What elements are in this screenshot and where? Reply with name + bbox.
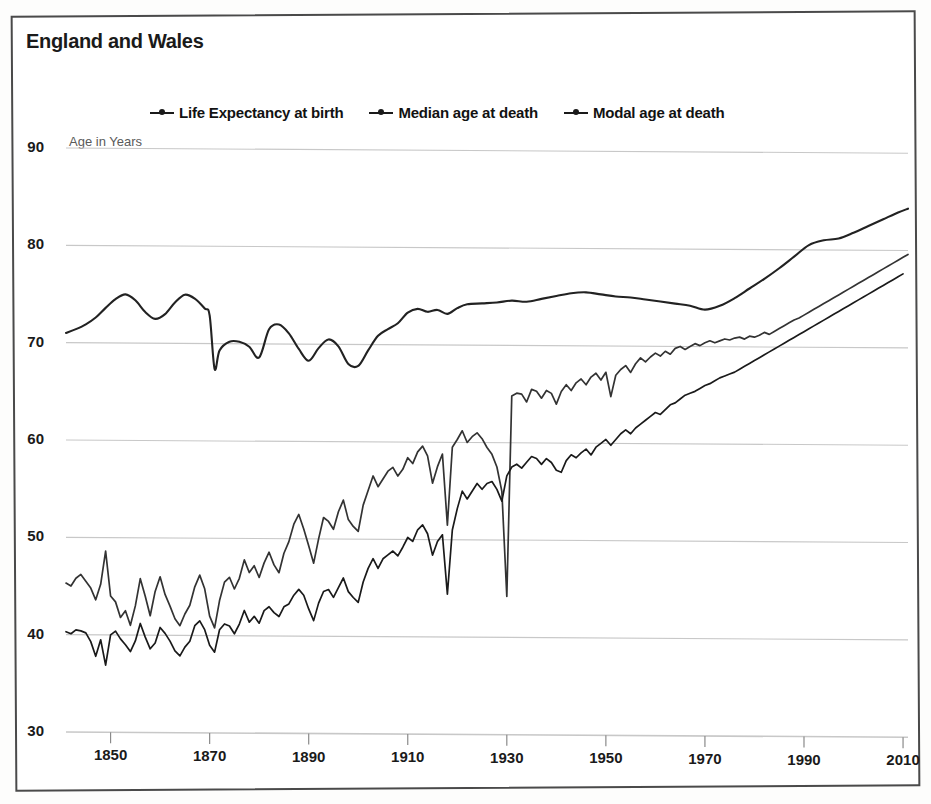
chart-page: England and Wales Life Expectancy at bir… (0, 0, 931, 804)
x-axis-tick-label: 1890 (279, 748, 339, 765)
x-axis-tick-label: 1950 (576, 749, 636, 766)
x-axis-tick-label: 1970 (675, 750, 735, 767)
x-axis-tick-label: 1910 (378, 748, 438, 765)
x-axis-labels: 185018701890191019301950197019902010 (0, 0, 931, 804)
x-axis-tick-label: 1990 (774, 751, 834, 768)
x-axis-tick-label: 2010 (873, 751, 931, 768)
x-axis-tick-label: 1930 (477, 749, 537, 766)
x-axis-tick-label: 1850 (81, 746, 141, 763)
x-axis-tick-label: 1870 (180, 747, 240, 764)
